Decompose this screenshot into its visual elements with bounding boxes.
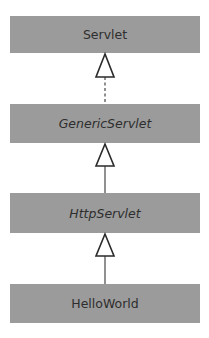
- hollow-triangle-arrowhead-icon: [96, 144, 114, 166]
- realization-arrow-generic-to-servlet: [96, 54, 114, 104]
- class-name-servlet: Servlet: [83, 27, 127, 42]
- generalization-arrow-http-to-generic: [96, 144, 114, 193]
- hollow-triangle-arrowhead-icon: [96, 54, 114, 77]
- class-name-generic-servlet: GenericServlet: [59, 116, 152, 131]
- class-box-hello-world: HelloWorld: [10, 284, 200, 323]
- class-name-http-servlet: HttpServlet: [69, 206, 140, 221]
- class-box-http-servlet: HttpServlet: [10, 193, 200, 233]
- class-name-hello-world: HelloWorld: [71, 296, 139, 311]
- hollow-triangle-arrowhead-icon: [96, 234, 114, 256]
- generalization-arrow-hello-to-http: [96, 234, 114, 284]
- class-box-servlet: Servlet: [10, 16, 200, 53]
- class-box-generic-servlet: GenericServlet: [10, 104, 200, 143]
